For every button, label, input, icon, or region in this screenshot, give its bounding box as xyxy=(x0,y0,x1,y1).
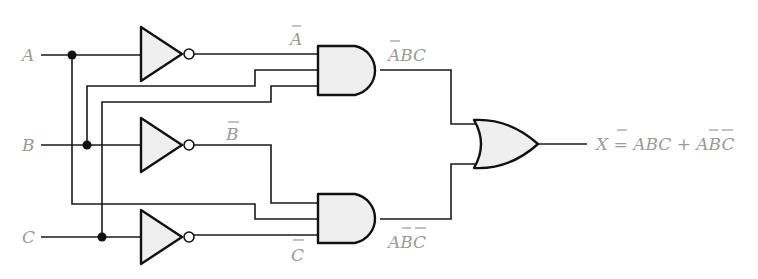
label-c-not: C xyxy=(291,240,304,265)
svg-text:ABC: ABC xyxy=(386,45,426,65)
wire-a-to-and-bottom xyxy=(72,55,318,219)
wire-and-bottom-to-or xyxy=(380,164,480,219)
svg-text:ABC: ABC xyxy=(386,232,426,252)
and-gate-top xyxy=(318,46,375,95)
not-gate-b xyxy=(141,118,194,172)
and-gate-bottom xyxy=(318,194,375,243)
logic-circuit-diagram: A B C A B C xyxy=(0,0,758,279)
label-a-not: A xyxy=(288,26,302,49)
wire-and-top-to-or xyxy=(380,70,480,124)
input-label-a: A xyxy=(20,45,34,65)
wire-c-to-and-top xyxy=(102,86,318,237)
input-label-c: C xyxy=(22,227,35,247)
output-equation-text: X = ABC + ABC xyxy=(594,134,734,154)
input-label-b: B xyxy=(21,135,35,155)
svg-text:B: B xyxy=(225,124,239,144)
label-b-not: B xyxy=(225,122,239,144)
junction-dot-c xyxy=(98,233,107,242)
wire-b-not-to-and-bottom xyxy=(194,145,318,203)
label-and-top-output: ABC xyxy=(386,41,426,65)
not-gate-c xyxy=(141,210,194,264)
label-and-bottom-output: ABC xyxy=(386,228,426,252)
junction-dot-a xyxy=(68,51,77,60)
wire-b-to-and-top xyxy=(87,70,318,145)
or-gate xyxy=(474,120,538,168)
svg-text:C: C xyxy=(291,245,304,265)
output-expression: X = ABC + ABC xyxy=(594,130,734,154)
not-gate-a xyxy=(141,27,194,81)
junction-dot-b xyxy=(83,141,92,150)
svg-text:A: A xyxy=(288,29,302,49)
